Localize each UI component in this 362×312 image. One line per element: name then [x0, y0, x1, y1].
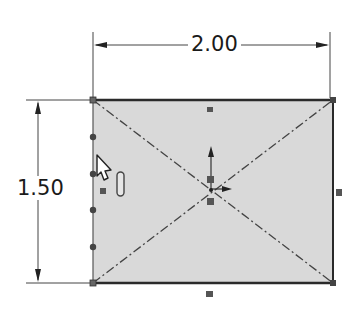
vertical-relation-bar-icon[interactable] [117, 172, 124, 196]
left-edge-dot [90, 244, 96, 250]
vertical-relation-icon[interactable] [100, 188, 106, 194]
midpoint-relation-icon[interactable] [207, 107, 213, 112]
vertex-bottom-left[interactable] [90, 280, 96, 286]
vertex-bottom-right[interactable] [330, 280, 336, 286]
left-edge-dot [90, 207, 96, 213]
height-dimension-value[interactable]: 1.50 [14, 176, 67, 200]
left-edge-dot [90, 134, 96, 140]
width-dimension-value[interactable]: 2.00 [188, 32, 241, 56]
vertex-top-right[interactable] [330, 97, 336, 103]
left-edge-dot [90, 171, 96, 177]
sketch-canvas[interactable] [0, 0, 362, 312]
midpoint-relation-icon[interactable] [336, 189, 342, 196]
midpoint-relation-icon[interactable] [206, 291, 213, 297]
